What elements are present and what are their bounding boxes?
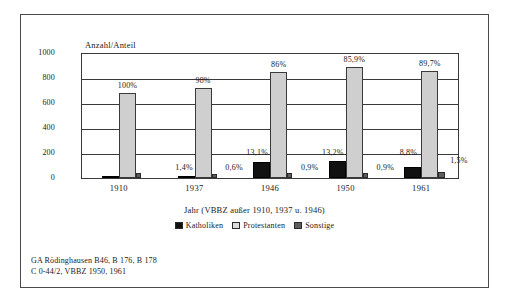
bar-sonstige-1961[interactable] bbox=[438, 172, 445, 178]
bar-group-1937: 1,4% 98% 0,6% bbox=[158, 54, 234, 178]
x-tick-label-1910: 1910 bbox=[81, 184, 157, 193]
legend-entry-protestanten[interactable]: Protestanten bbox=[232, 221, 285, 230]
legend-label-katholiken: Katholiken bbox=[186, 221, 224, 230]
bar-value-label-katholiken-1961: 8,8% bbox=[386, 149, 430, 157]
y-axis-title: Anzahl/Anteil bbox=[85, 41, 136, 50]
source-note-line-2: C 0-44/2, VBBZ 1950, 1961 bbox=[31, 267, 157, 278]
y-tick-label: 400 bbox=[15, 124, 55, 132]
y-tick-label: 200 bbox=[15, 149, 55, 157]
source-note: GA Rödinghausen B46, B 176, B 178 C 0-44… bbox=[31, 256, 157, 277]
bar-katholiken-1910[interactable] bbox=[102, 176, 119, 178]
legend-swatch-icon-sonstige bbox=[294, 222, 302, 229]
bar-group-1961: 8,8% 89,7% 1,5% bbox=[384, 54, 460, 178]
source-note-line-1: GA Rödinghausen B46, B 176, B 178 bbox=[31, 256, 157, 267]
legend-swatch-icon-katholiken bbox=[175, 222, 183, 229]
x-tick-label-1937: 1937 bbox=[157, 184, 233, 193]
x-tick-label-1946: 1946 bbox=[232, 184, 308, 193]
legend-label-protestanten: Protestanten bbox=[243, 221, 285, 230]
bar-katholiken-1950[interactable] bbox=[329, 161, 346, 178]
y-tick-label: 1000 bbox=[15, 49, 55, 57]
bar-group-1946: 13,1% 86% 0,9% bbox=[233, 54, 309, 178]
bar-sonstige-1946[interactable] bbox=[287, 173, 292, 178]
y-tick-label: 800 bbox=[15, 74, 55, 82]
bar-value-label-protestanten-1950: 85,9% bbox=[334, 56, 375, 64]
y-tick-label: 600 bbox=[15, 99, 55, 107]
bar-value-label-katholiken-1946: 13,1% bbox=[235, 149, 279, 157]
bar-sonstige-1910[interactable] bbox=[136, 173, 141, 178]
bar-protestanten-1950[interactable] bbox=[346, 67, 363, 179]
bar-sonstige-1950[interactable] bbox=[363, 173, 368, 179]
bar-group-1910: 100% bbox=[82, 54, 158, 178]
legend: Katholiken Protestanten Sonstige bbox=[21, 221, 488, 230]
bar-value-label-katholiken-1937: 1,4% bbox=[164, 164, 205, 172]
figure-frame: Anzahl/Anteil 1000 800 600 400 200 0 100… bbox=[20, 14, 489, 288]
legend-entry-katholiken[interactable]: Katholiken bbox=[175, 221, 224, 230]
bar-katholiken-1946[interactable] bbox=[253, 162, 270, 179]
legend-swatch-icon-protestanten bbox=[232, 222, 240, 229]
bar-protestanten-1961[interactable] bbox=[421, 71, 438, 179]
x-axis-title: Jahr (VBBZ außer 1910, 1937 u. 1946) bbox=[21, 205, 488, 215]
plot-wrapper: Anzahl/Anteil 1000 800 600 400 200 0 100… bbox=[59, 41, 459, 193]
bar-katholiken-1937[interactable] bbox=[178, 176, 195, 178]
bar-value-label-sonstige-1961: 1,5% bbox=[438, 157, 479, 165]
bar-value-label-protestanten-1946: 86% bbox=[258, 61, 299, 69]
x-tick-label-1950: 1950 bbox=[308, 184, 384, 193]
y-tick-label: 0 bbox=[15, 174, 55, 182]
bar-katholiken-1961[interactable] bbox=[404, 167, 421, 178]
bar-value-label-katholiken-1950: 13,2% bbox=[311, 149, 355, 157]
legend-label-sonstige: Sonstige bbox=[305, 221, 334, 230]
bar-protestanten-1946[interactable] bbox=[270, 72, 287, 179]
x-tick-label-1961: 1961 bbox=[383, 184, 459, 193]
bar-value-label-protestanten-1961: 89,7% bbox=[409, 60, 450, 68]
bar-sonstige-1937[interactable] bbox=[212, 174, 217, 178]
bar-value-label-protestanten-1910: 100% bbox=[107, 82, 148, 90]
plot-area: 100% 1,4% 98% 0,6% 13,1% 86% 0,9% bbox=[81, 53, 459, 179]
bar-group-1950: 13,2% 85,9% 0,9% bbox=[309, 54, 385, 178]
bar-value-label-protestanten-1937: 98% bbox=[183, 77, 224, 85]
bar-protestanten-1910[interactable] bbox=[119, 93, 136, 178]
legend-entry-sonstige[interactable]: Sonstige bbox=[294, 221, 334, 230]
